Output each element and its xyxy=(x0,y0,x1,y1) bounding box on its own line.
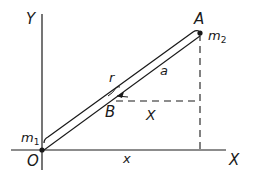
rod-diagram: Y X O A B m2 m1 r a X x xyxy=(0,0,259,181)
point-A-label: A xyxy=(193,10,204,28)
rod-upper-edge xyxy=(44,31,199,143)
arrow-shaft xyxy=(117,96,128,97)
x-axis-label: X xyxy=(228,151,240,169)
point-B-label: B xyxy=(105,103,115,121)
X-upper-label: X xyxy=(145,107,156,123)
diagram-canvas: Y X O A B m2 m1 r a X x xyxy=(0,0,259,181)
r-brace xyxy=(108,87,120,96)
point-O xyxy=(39,147,44,152)
mass-m2-label: m2 xyxy=(208,28,226,45)
mass-m1-label: m1 xyxy=(21,130,39,147)
origin-label: O xyxy=(27,152,39,170)
x-lower-label: x xyxy=(122,151,131,166)
point-A xyxy=(197,30,202,35)
a-label: a xyxy=(160,63,168,78)
y-axis-label: Y xyxy=(26,10,37,28)
arrow-at-B-icon xyxy=(117,92,124,98)
rod-lower-edge xyxy=(44,36,200,150)
r-label: r xyxy=(109,70,116,85)
